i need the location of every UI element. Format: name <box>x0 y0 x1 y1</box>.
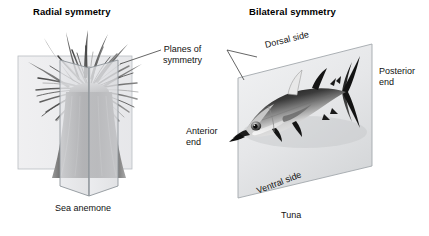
diagram-artwork <box>0 0 429 236</box>
anterior-end-label: Anterior end <box>186 126 218 148</box>
anterior-end-line2: end <box>186 137 218 148</box>
posterior-end-line2: end <box>379 77 415 88</box>
symmetry-diagram: Radial symmetry Bilateral symmetry Plane… <box>0 0 429 236</box>
caption-sea-anemone: Sea anemone <box>55 203 111 213</box>
sea-anemone-group <box>18 30 142 196</box>
panel-title-bilateral: Bilateral symmetry <box>249 6 336 17</box>
planes-of-symmetry-line1: Planes of <box>163 44 202 55</box>
posterior-end-line1: Posterior <box>379 66 415 77</box>
anemone-symmetry-plane-2 <box>89 60 118 196</box>
caption-tuna: Tuna <box>281 210 301 220</box>
posterior-end-label: Posterior end <box>379 66 415 88</box>
planes-of-symmetry-line2: symmetry <box>163 55 202 66</box>
anterior-end-line1: Anterior <box>186 126 218 137</box>
panel-title-radial: Radial symmetry <box>33 6 111 17</box>
planes-of-symmetry-label: Planes of symmetry <box>163 44 202 66</box>
anemone-symmetry-plane-1 <box>60 60 89 196</box>
